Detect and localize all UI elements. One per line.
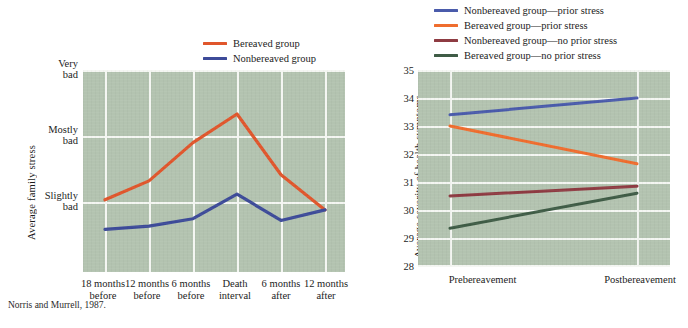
right-chart-line-bereaved-no-prior-stress bbox=[450, 193, 637, 228]
figure-root: Bereaved group Nonbereaved group Average… bbox=[0, 0, 688, 328]
right-chart-line-nonbereaved-prior-stress bbox=[450, 98, 637, 115]
legend-swatch-bereaved-group bbox=[203, 42, 227, 46]
left-chart-legend: Bereaved group Nonbereaved group bbox=[203, 36, 316, 66]
right-chart-ytick-32: 32 bbox=[396, 149, 414, 160]
source-caption: Norris and Murrell, 1987. bbox=[8, 300, 106, 310]
right-chart-plot-area bbox=[418, 70, 670, 266]
legend-label-nonbereaved-group: Nonbereaved group bbox=[233, 53, 316, 64]
right-chart-series-layer bbox=[418, 70, 670, 266]
left-chart-ytick-very-bad: Verybad bbox=[38, 58, 78, 80]
right-chart-legend: Nonbereaved group—prior stress Bereaved … bbox=[434, 3, 617, 63]
right-chart-line-nonbereaved-no-prior-stress bbox=[450, 186, 637, 196]
legend-item-bereaved-group: Bereaved group bbox=[203, 36, 316, 51]
legend-swatch-nonbereaved-no-prior-stress bbox=[434, 39, 458, 43]
left-chart-line-bereaved-group bbox=[105, 114, 325, 210]
legend-swatch-bereaved-prior-stress bbox=[434, 24, 458, 28]
legend-swatch-nonbereaved-prior-stress bbox=[434, 9, 458, 13]
right-chart-ytick-30: 30 bbox=[396, 205, 414, 216]
legend-label-bereaved-group: Bereaved group bbox=[233, 38, 300, 49]
right-chart-xtick-postbereavement: Postbereavement bbox=[565, 274, 688, 286]
left-chart-ytick-slightly-bad: Slightlybad bbox=[38, 190, 78, 212]
legend-label-bereaved-prior-stress: Bereaved group—prior stress bbox=[464, 20, 588, 31]
legend-label-nonbereaved-prior-stress: Nonbereaved group—prior stress bbox=[464, 5, 604, 16]
right-chart-line-bereaved-prior-stress bbox=[450, 126, 637, 164]
right-chart-xtick-prebereavement: Prebereavement bbox=[410, 274, 555, 286]
legend-label-nonbereaved-no-prior-stress: Nonbereaved group—no prior stress bbox=[464, 35, 617, 46]
left-chart-line-nonbereaved-group bbox=[105, 194, 325, 229]
left-chart-xtick-5: 12 monthsafter bbox=[288, 278, 364, 301]
right-chart-ytick-34: 34 bbox=[396, 93, 414, 104]
legend-swatch-bereaved-no-prior-stress bbox=[434, 54, 458, 58]
left-chart-series-layer bbox=[83, 70, 345, 272]
left-chart-plot-area bbox=[83, 70, 345, 272]
legend-item-nonbereaved-group: Nonbereaved group bbox=[203, 51, 316, 66]
left-chart-y-axis-title: Average family stress bbox=[26, 110, 37, 240]
legend-item-nonbereaved-prior-stress: Nonbereaved group—prior stress bbox=[434, 3, 617, 18]
right-chart-ytick-31: 31 bbox=[396, 177, 414, 188]
right-chart-ytick-29: 29 bbox=[396, 233, 414, 244]
right-chart-ytick-28: 28 bbox=[396, 261, 414, 272]
right-chart-ytick-35: 35 bbox=[396, 65, 414, 76]
legend-item-nonbereaved-no-prior-stress: Nonbereaved group—no prior stress bbox=[434, 33, 617, 48]
legend-item-bereaved-prior-stress: Bereaved group—prior stress bbox=[434, 18, 617, 33]
legend-item-bereaved-no-prior-stress: Bereaved group—no prior stress bbox=[434, 48, 617, 63]
legend-label-bereaved-no-prior-stress: Bereaved group—no prior stress bbox=[464, 50, 601, 61]
legend-swatch-nonbereaved-group bbox=[203, 57, 227, 61]
left-chart-ytick-mostly-bad: Mostlybad bbox=[38, 124, 78, 146]
right-chart-ytick-33: 33 bbox=[396, 121, 414, 132]
